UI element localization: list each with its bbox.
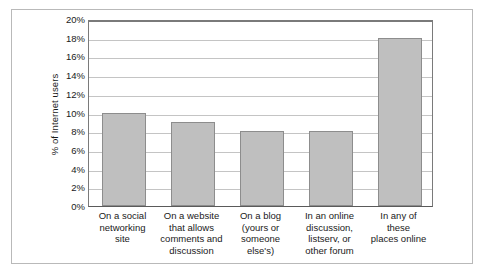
bar <box>378 38 422 206</box>
bar-series <box>89 21 432 206</box>
x-axis-category-label-line: listserv, or <box>296 233 363 245</box>
plot-area <box>88 20 433 207</box>
bar <box>309 131 353 206</box>
x-axis-category-label-line: discussion, <box>296 222 363 234</box>
bar <box>240 131 284 206</box>
bar <box>102 113 146 207</box>
x-axis-category-label: On a websitethat allowscomments anddiscu… <box>157 210 226 264</box>
x-axis-category-label: In any oftheseplaces online <box>364 210 433 264</box>
x-axis-category-label-line: On a social <box>89 210 156 222</box>
x-axis-category-label-line: (yours or <box>227 222 294 234</box>
x-axis-category-label-line: In an online <box>296 210 363 222</box>
x-axis-category-label: On a socialnetworkingsite <box>88 210 157 264</box>
y-axis-tick-label: 18% <box>58 34 85 44</box>
y-axis-tick-label: 14% <box>58 71 85 81</box>
x-axis-category-label-line: comments and <box>158 233 225 245</box>
x-axis-category-label-line: these <box>365 222 432 234</box>
x-axis-category-label-line: networking <box>89 222 156 234</box>
x-axis-category-label: In an onlinediscussion,listserv, orother… <box>295 210 364 264</box>
y-axis-tick-label: 12% <box>58 90 85 100</box>
x-axis-category-label-line: other forum <box>296 245 363 257</box>
x-axis-category-labels: On a socialnetworkingsiteOn a websitetha… <box>88 210 433 264</box>
x-axis-category-label-line: On a blog <box>227 210 294 222</box>
x-axis-category-label-line: site <box>89 233 156 245</box>
y-axis-tick-label: 6% <box>58 146 85 156</box>
x-axis-category-label-line: else's) <box>227 245 294 257</box>
y-axis-tick-label: 8% <box>58 127 85 137</box>
y-axis-tick-labels: 20%18%16%14%12%10%8%6%4%2%0% <box>58 20 85 207</box>
x-axis-category-label-line: In any of <box>365 210 432 222</box>
x-axis-category-label: On a blog(yours orsomeoneelse's) <box>226 210 295 264</box>
x-axis-category-label-line: On a website <box>158 210 225 222</box>
bar <box>171 122 215 206</box>
x-axis-category-label-line: someone <box>227 233 294 245</box>
chart-figure: % of Internet users 20%18%16%14%12%10%8%… <box>0 0 487 278</box>
x-axis-category-label-line: discussion <box>158 245 225 257</box>
y-axis-tick-label: 20% <box>58 15 85 25</box>
y-axis-tick-label: 10% <box>58 109 85 119</box>
y-axis-tick-label: 16% <box>58 53 85 63</box>
y-axis-tick-label: 2% <box>58 184 85 194</box>
y-axis-tick-label: 4% <box>58 165 85 175</box>
x-axis-category-label-line: places online <box>365 233 432 245</box>
x-axis-category-label-line: that allows <box>158 222 225 234</box>
y-axis-tick-label: 0% <box>58 202 85 212</box>
